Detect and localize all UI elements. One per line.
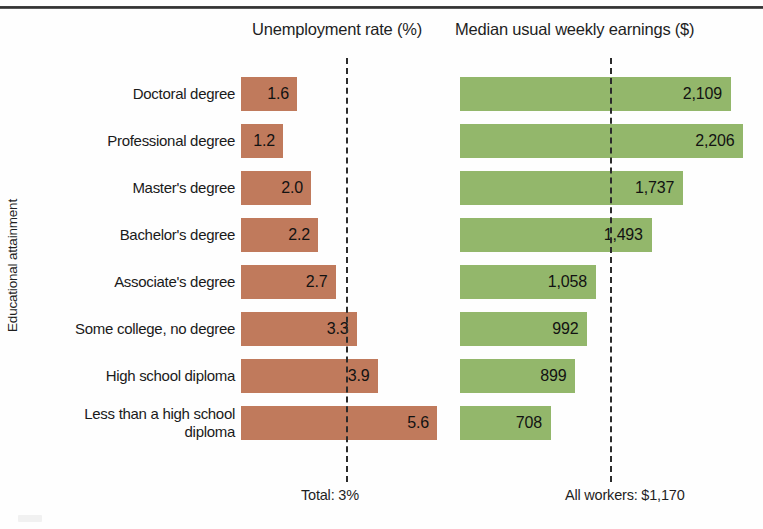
category-label: Doctoral degree: [35, 85, 235, 103]
y-axis-title: Educational attainment: [5, 166, 20, 366]
bar-value-label: 2.7: [241, 265, 328, 299]
bar-value-label: 1,058: [460, 265, 587, 299]
bar-value-label: 3.9: [241, 359, 370, 393]
category-label: High school diploma: [35, 367, 235, 385]
bar-value-label: 2,206: [460, 124, 734, 158]
bar-value-label: 1,737: [460, 171, 674, 205]
category-label: Associate's degree: [35, 273, 235, 291]
column-title-unemployment: Unemployment rate (%): [252, 20, 422, 39]
bar-value-label: 1.6: [241, 77, 289, 111]
reference-line-unemployment: [346, 58, 348, 482]
category-label: Some college, no degree: [35, 320, 235, 338]
column-title-earnings: Median usual weekly earnings ($): [455, 20, 694, 39]
category-label: Bachelor's degree: [35, 226, 235, 244]
bar-value-label: 2.2: [241, 218, 310, 252]
page-corner-artifact: [18, 515, 42, 522]
category-label: Master's degree: [35, 179, 235, 197]
bar-value-label: 5.6: [241, 406, 429, 440]
bar-value-label: 899: [460, 359, 566, 393]
bar-value-label: 2.0: [241, 171, 303, 205]
bar-value-label: 708: [460, 406, 542, 440]
category-label: Professional degree: [35, 132, 235, 150]
category-label: Less than a high school diploma: [35, 405, 235, 441]
bar-value-label: 2,109: [460, 77, 722, 111]
bar-value-label: 1,493: [460, 218, 643, 252]
reference-line-earnings: [610, 58, 612, 482]
footer-total-unemployment: Total: 3%: [301, 487, 359, 503]
bar-value-label: 1.2: [241, 124, 275, 158]
category-label-column: Doctoral degreeProfessional degreeMaster…: [30, 0, 235, 529]
bar-value-label: 3.3: [241, 312, 349, 346]
footer-all-workers-earnings: All workers: $1,170: [565, 487, 685, 503]
chart-canvas: Unemployment rate (%) Median usual weekl…: [0, 0, 763, 529]
bar-value-label: 992: [460, 312, 578, 346]
